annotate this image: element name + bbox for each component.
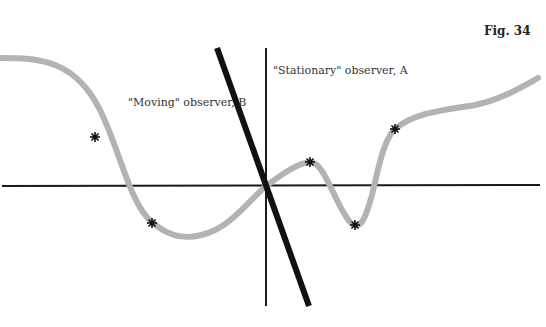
relativity-diagram: Fig. 34 "Stationary" observer, A "Moving… <box>0 0 546 327</box>
diagram-canvas <box>0 0 546 327</box>
moving-observer-axis <box>217 48 309 306</box>
event-markers <box>90 124 400 230</box>
asterisk-marker-icon <box>90 132 100 142</box>
asterisk-marker-icon <box>350 220 360 230</box>
moving-observer-label: "Moving" observer, B <box>128 96 246 109</box>
worldline-curve <box>0 58 538 237</box>
figure-number: Fig. 34 <box>484 24 531 38</box>
asterisk-marker-icon <box>147 218 157 228</box>
asterisk-marker-icon <box>390 124 400 134</box>
asterisk-marker-icon <box>305 157 315 167</box>
stationary-observer-label: "Stationary" observer, A <box>273 64 408 77</box>
